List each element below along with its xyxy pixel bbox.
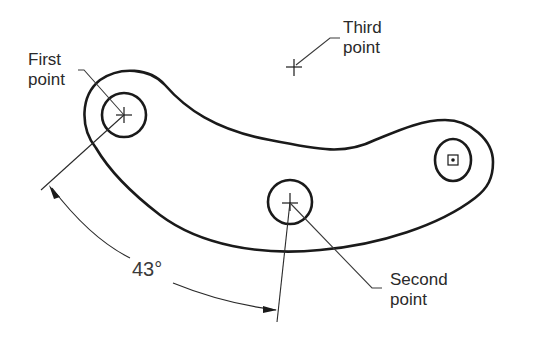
second-point-label-line2: point bbox=[390, 290, 448, 310]
second-point-label-line1: Second bbox=[390, 270, 448, 290]
extension-line-first bbox=[41, 115, 124, 190]
dimension-arrow-start-icon bbox=[49, 185, 60, 199]
angle-dimension-text: 43° bbox=[132, 258, 162, 281]
first-point-label-line2: point bbox=[28, 70, 65, 90]
dimension-arrow-end-icon bbox=[263, 306, 277, 313]
first-point-label-line1: First bbox=[28, 50, 65, 70]
dimension-arc-lower bbox=[173, 283, 276, 310]
third-point-label: Third point bbox=[343, 18, 382, 58]
third-point-label-line1: Third bbox=[343, 18, 382, 38]
dimension-arc-upper bbox=[52, 188, 130, 258]
second-point-label: Second point bbox=[390, 270, 448, 310]
first-point-label: First point bbox=[28, 50, 65, 90]
drawing-canvas bbox=[0, 0, 537, 343]
third-point-label-line2: point bbox=[343, 38, 382, 58]
end-hole-center-dot-icon bbox=[451, 158, 455, 162]
third-point-leader bbox=[296, 38, 340, 65]
second-point-leader bbox=[291, 204, 382, 288]
